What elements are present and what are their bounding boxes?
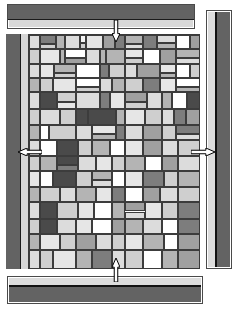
mosaic-tile <box>40 49 60 64</box>
mosaic-tile <box>176 49 200 58</box>
mosaic-tile <box>162 202 178 218</box>
mosaic-tile <box>40 125 49 140</box>
mosaic-tile <box>116 109 125 125</box>
mosaic-tile <box>78 140 92 156</box>
mosaic-tile <box>92 171 112 180</box>
mosaic-tile <box>29 234 40 250</box>
top-platen <box>7 4 195 29</box>
mosaic-tile <box>53 250 75 269</box>
mosaic-tile <box>112 219 125 234</box>
mosaic-tile <box>125 250 143 269</box>
mosaic-tile <box>176 35 190 49</box>
mosaic-tile <box>57 102 75 109</box>
mosaic-tile <box>125 219 143 234</box>
mosaic-tile <box>125 102 147 109</box>
top-platen-dark-band <box>8 5 194 20</box>
load-arrow-bottom-icon <box>112 258 120 282</box>
mosaic-tile <box>76 109 88 125</box>
mosaic-tile <box>143 219 161 234</box>
right-platen-dark-band <box>217 12 230 267</box>
mosaic-tile <box>40 234 60 250</box>
mosaic-tile <box>40 92 57 108</box>
mosaic-tile <box>125 92 147 101</box>
mosaic-tile <box>125 64 137 78</box>
mosaic-tile <box>112 202 125 218</box>
mosaic-tile <box>96 187 112 202</box>
mosaic-tile <box>86 49 100 64</box>
mosaic-tile <box>65 35 79 49</box>
mosaic-tile <box>96 156 112 171</box>
mosaic-tile <box>92 140 110 156</box>
mosaic-tile <box>190 35 200 49</box>
mosaic-tile <box>57 156 77 165</box>
mosaic-tile <box>106 49 125 64</box>
mosaic-tile <box>160 64 176 73</box>
mosaic-tile <box>49 125 75 140</box>
mosaic-tile <box>143 78 159 92</box>
mosaic-tile <box>174 109 186 125</box>
mosaic-tile <box>178 187 200 202</box>
mosaic-tile <box>29 250 40 269</box>
mosaic-tile <box>178 250 200 269</box>
mosaic-tile <box>162 109 174 125</box>
mosaic-tile <box>178 234 200 250</box>
mosaic-tile <box>53 171 75 187</box>
mosaic-tile <box>160 78 176 92</box>
mosaic-tile <box>176 125 200 134</box>
mosaic-tile <box>112 156 125 171</box>
mosaic-tile <box>94 202 112 218</box>
mosaic-tile <box>78 156 96 171</box>
mosaic-tile <box>40 109 60 125</box>
mosaic-tile <box>76 250 92 269</box>
mosaic-tile <box>78 202 94 218</box>
mosaic-tile <box>125 202 145 211</box>
mosaic-tile <box>116 125 125 140</box>
bottom-platen <box>7 276 203 304</box>
mosaic-tile <box>112 187 125 202</box>
mosaic-tile <box>164 234 178 250</box>
load-arrow-left-icon <box>18 148 42 156</box>
mosaic-tile <box>145 109 161 125</box>
mosaic-tile <box>143 35 157 49</box>
mosaic-tile <box>125 234 143 250</box>
load-arrow-right-icon <box>191 148 215 156</box>
mosaic-tile <box>125 125 143 140</box>
mosaic-tile <box>29 125 40 140</box>
mosaic-tile <box>29 109 40 125</box>
mosaic-tile <box>40 202 57 218</box>
mosaic-tile <box>29 35 40 49</box>
mosaic-tile <box>60 234 75 250</box>
mosaic-tile <box>40 78 53 92</box>
mosaic-tile <box>92 125 116 134</box>
mosaic-tile <box>96 234 112 250</box>
mosaic-tile <box>54 64 75 73</box>
mosaic-tile <box>162 140 178 156</box>
mosaic-tile <box>110 140 125 156</box>
mosaic-tile <box>29 156 40 171</box>
mosaic-tile <box>40 219 57 234</box>
mosaic-tile <box>40 171 53 187</box>
mosaic-tile <box>56 35 65 49</box>
mosaic-tile <box>88 109 116 125</box>
mosaic-tile <box>29 219 40 234</box>
mosaic-tile <box>125 187 143 202</box>
mosaic-tile <box>100 92 110 108</box>
mosaic-tile <box>92 180 112 187</box>
brick-pattern-specimen <box>28 34 200 269</box>
mosaic-tile <box>76 234 96 250</box>
mosaic-tile <box>125 109 145 125</box>
mosaic-tile <box>164 171 178 187</box>
mosaic-tile <box>53 78 75 92</box>
mosaic-tile <box>143 187 159 202</box>
mosaic-tile <box>40 156 57 171</box>
mosaic-tile <box>76 64 100 78</box>
mosaic-tile <box>125 49 143 58</box>
mosaic-tile <box>29 78 40 92</box>
mosaic-tile <box>172 92 187 108</box>
right-platen-light-band <box>208 12 215 267</box>
mosaic-tile <box>160 49 176 64</box>
mosaic-tile <box>178 202 200 218</box>
mosaic-tile <box>125 171 143 187</box>
mosaic-tile <box>143 125 161 140</box>
mosaic-tile <box>178 156 200 171</box>
